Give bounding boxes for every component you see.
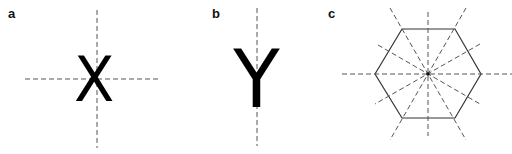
hexagon-center <box>426 72 430 76</box>
panel-label-b: b <box>212 6 220 21</box>
panel-label-a: a <box>8 6 15 21</box>
letter-x: X <box>74 49 114 111</box>
letter-y: Y <box>233 40 279 120</box>
panel-label-c: c <box>328 6 335 21</box>
